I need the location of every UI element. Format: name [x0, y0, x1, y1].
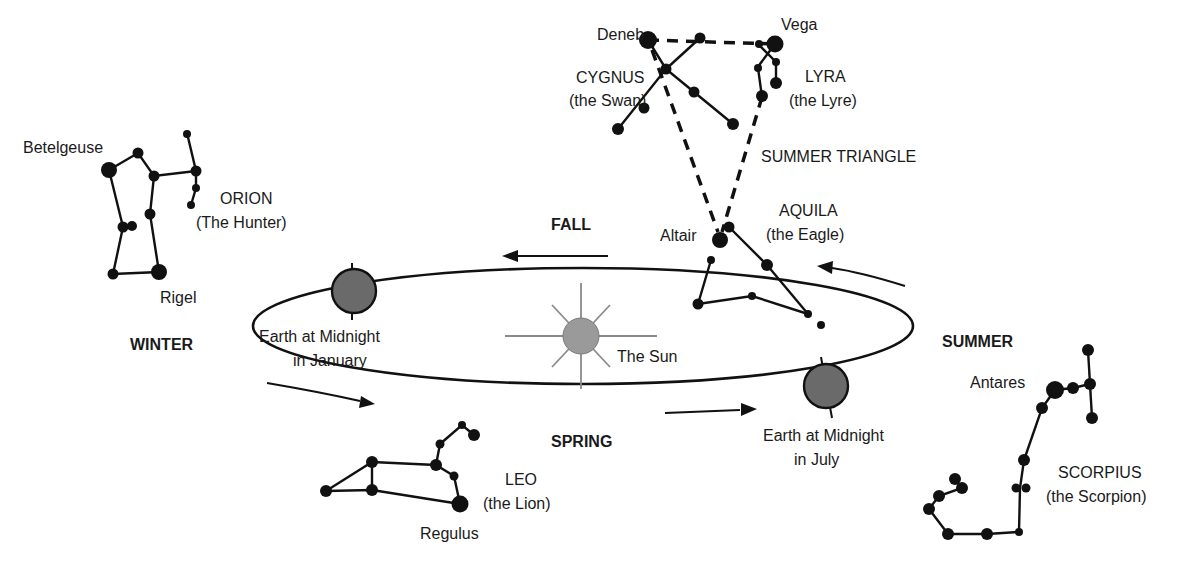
- arrow-spring: [665, 403, 757, 416]
- star-rigel-label: Rigel: [160, 289, 196, 306]
- season-winter-label: WINTER: [130, 336, 194, 353]
- season-spring-label: SPRING: [551, 433, 612, 450]
- lyra-name: LYRA: [805, 68, 846, 85]
- star-vega-label: Vega: [781, 16, 818, 33]
- earth-january-label-line1: Earth at Midnight: [259, 328, 381, 345]
- star-rigel: [151, 264, 167, 280]
- star-betelgeuse: [101, 162, 117, 178]
- earth-orbit-constellations-diagram: The Sun Earth at Midnight in January Ear…: [0, 0, 1191, 564]
- leo-name: LEO: [505, 471, 537, 488]
- orion-common-name: (The Hunter): [196, 214, 287, 231]
- star-deneb-label: Deneb: [597, 26, 644, 43]
- star-betelgeuse-label: Betelgeuse: [23, 139, 103, 156]
- lyra-constellation: [754, 36, 784, 103]
- earth-july-label-line2: in July: [794, 451, 839, 468]
- star-antares: [1046, 381, 1064, 399]
- sun-label: The Sun: [617, 348, 677, 365]
- cygnus-name: CYGNUS: [576, 69, 644, 86]
- aquila-common-name: (the Eagle): [766, 226, 844, 243]
- arrow-winter-to-spring: [267, 383, 375, 408]
- star-regulus: [452, 496, 469, 513]
- earth-january-label-line2: in January: [293, 352, 367, 369]
- star-vega: [767, 36, 784, 53]
- orion-name: ORION: [220, 190, 272, 207]
- scorpius-name: SCORPIUS: [1058, 464, 1142, 481]
- season-summer-label: SUMMER: [942, 333, 1014, 350]
- earth-july-icon: [804, 357, 848, 418]
- arrow-fall: [502, 250, 608, 262]
- star-altair: [712, 232, 728, 248]
- sun-icon: [505, 283, 657, 389]
- star-antares-label: Antares: [970, 374, 1025, 391]
- cygnus-common-name: (the Swan): [569, 92, 646, 109]
- earth-january-icon: [332, 263, 376, 320]
- lyra-common-name: (the Lyre): [789, 92, 857, 109]
- summer-triangle-label: SUMMER TRIANGLE: [761, 148, 916, 165]
- season-fall-label: FALL: [551, 216, 591, 233]
- star-regulus-label: Regulus: [420, 525, 479, 542]
- scorpius-common-name: (the Scorpion): [1046, 488, 1147, 505]
- earth-july-label-line1: Earth at Midnight: [763, 427, 885, 444]
- arrow-summer-to-fall: [817, 261, 905, 286]
- star-altair-label: Altair: [660, 227, 697, 244]
- leo-common-name: (the Lion): [483, 495, 551, 512]
- orion-constellation: [101, 130, 202, 280]
- leo-constellation: [320, 421, 480, 513]
- aquila-name: AQUILA: [779, 202, 838, 219]
